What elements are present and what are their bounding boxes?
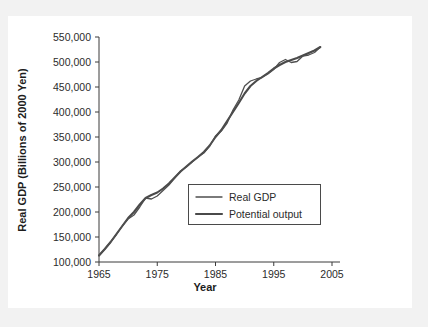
y-tick-label: 550,000	[53, 31, 91, 43]
axis-spines	[99, 37, 340, 262]
y-axis-title: Real GDP (Billions of 2000 Yen)	[16, 68, 28, 232]
y-tick-label: 200,000	[53, 206, 91, 218]
x-axis-title: Year	[193, 281, 217, 293]
legend-label-2: Potential output	[229, 208, 302, 220]
y-tick-label: 250,000	[53, 181, 91, 193]
x-tick-label: 1965	[87, 268, 111, 280]
x-axis: 19651975198519952005	[87, 262, 344, 280]
chart-axes	[99, 37, 340, 262]
x-tick-label: 1995	[262, 268, 286, 280]
y-tick-label: 100,000	[53, 256, 91, 268]
chart-legend: Real GDPPotential output	[189, 185, 321, 225]
x-tick-label: 2005	[320, 268, 344, 280]
y-tick-label: 500,000	[53, 56, 91, 68]
figure-page: 100,000150,000200,000250,000300,000350,0…	[0, 0, 428, 327]
y-tick-label: 350,000	[53, 131, 91, 143]
y-tick-label: 300,000	[53, 156, 91, 168]
x-tick-label: 1985	[204, 268, 228, 280]
chart-svg: 100,000150,000200,000250,000300,000350,0…	[0, 0, 428, 327]
y-tick-label: 450,000	[53, 81, 91, 93]
legend-label-1: Real GDP	[229, 191, 276, 203]
x-tick-label: 1975	[146, 268, 170, 280]
gdp-potential-output-chart: 100,000150,000200,000250,000300,000350,0…	[0, 0, 428, 327]
y-tick-label: 400,000	[53, 106, 91, 118]
y-axis: 100,000150,000200,000250,000300,000350,0…	[53, 31, 99, 268]
y-tick-label: 150,000	[53, 231, 91, 243]
